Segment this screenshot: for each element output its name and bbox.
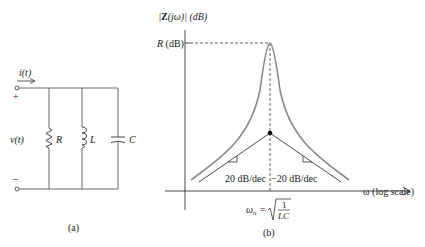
resonant-frequency-formula: ωn = 1 LC bbox=[246, 199, 291, 221]
resistor-icon bbox=[46, 128, 52, 148]
caption-b: (b) bbox=[263, 227, 275, 239]
minus-sign: – bbox=[12, 173, 19, 184]
svg-text:1: 1 bbox=[282, 200, 287, 210]
right-slope-label: −20 dB/dec bbox=[271, 173, 318, 184]
voltage-label: v(t) bbox=[10, 134, 25, 146]
current-arrow-icon bbox=[17, 79, 35, 84]
svg-text:LC: LC bbox=[277, 211, 290, 221]
top-terminal bbox=[15, 86, 19, 90]
svg-text:ωn: ωn bbox=[246, 204, 257, 217]
left-slope-label: 20 dB/dec bbox=[225, 173, 266, 184]
peak-label: R (dB) bbox=[156, 38, 184, 50]
bottom-terminal bbox=[15, 187, 19, 191]
caption-a: (a) bbox=[68, 222, 79, 234]
inductor-label: L bbox=[89, 134, 96, 145]
diagram-canvas: i(t) + – v(t) R bbox=[0, 0, 425, 247]
corner-point bbox=[268, 131, 273, 136]
y-axis-label: |Z(jω)| (dB) bbox=[159, 11, 208, 23]
resistor-label: R bbox=[55, 134, 62, 145]
x-axis-label: ω (log scale) bbox=[363, 186, 414, 198]
current-label: i(t) bbox=[19, 67, 32, 79]
plus-sign: + bbox=[13, 91, 19, 102]
impedance-magnitude-plot: |Z(jω)| (dB) ω (log scale) R (dB) 20 dB/… bbox=[156, 11, 414, 239]
svg-text:=: = bbox=[260, 204, 266, 215]
circuit-wires bbox=[19, 88, 118, 189]
capacitor-icon bbox=[111, 137, 125, 143]
capacitor-label: C bbox=[129, 134, 136, 145]
inductor-icon bbox=[82, 127, 87, 148]
parallel-rlc-circuit: i(t) + – v(t) R bbox=[10, 67, 136, 234]
